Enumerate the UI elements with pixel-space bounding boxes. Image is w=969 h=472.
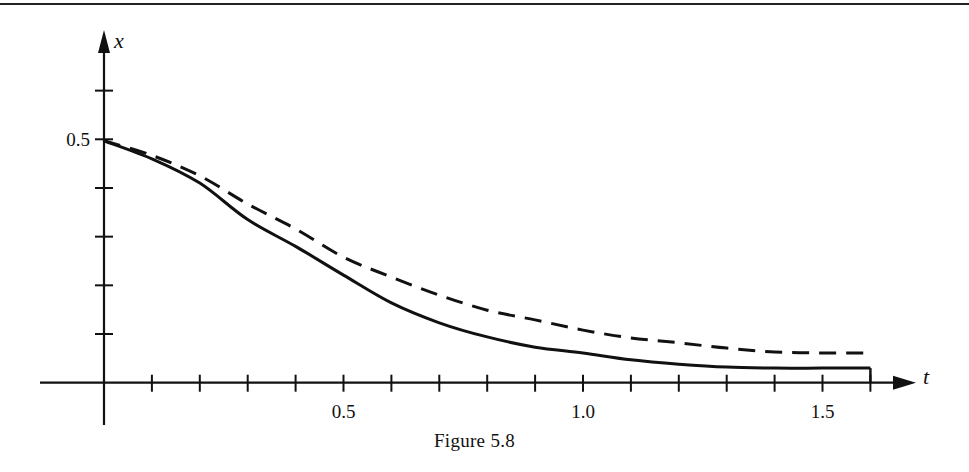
dashed-curve — [104, 141, 870, 353]
x-axis-label: t — [923, 364, 930, 389]
y-tick-label: 0.5 — [66, 129, 90, 150]
x-tick-label: 1.5 — [811, 401, 835, 422]
y-axis-arrow-icon — [98, 30, 110, 53]
x-axis-arrow-icon — [893, 376, 916, 390]
x-tick-label: 0.5 — [332, 401, 356, 422]
line-chart: 0.51.01.50.5 x t — [0, 0, 969, 472]
figure-5-8: 0.51.01.50.5 x t Figure 5.8 — [0, 0, 969, 472]
axes: 0.51.01.50.5 — [40, 30, 916, 425]
x-tick-label: 1.0 — [571, 401, 595, 422]
figure-caption: Figure 5.8 — [0, 430, 949, 452]
curves — [104, 141, 870, 383]
y-axis-label: x — [113, 28, 124, 53]
solid-curve — [104, 141, 870, 368]
